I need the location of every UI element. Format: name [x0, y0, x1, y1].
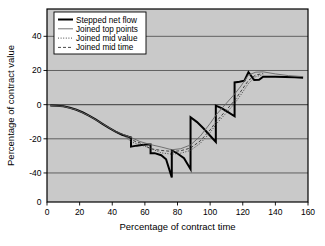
x-tick-label: 0	[45, 207, 50, 217]
chart-container: 02040608010012014016040200-20-400Percent…	[0, 0, 325, 246]
y-tick-label: -20	[29, 134, 42, 144]
legend-label-1: Stepped net flow	[76, 16, 137, 25]
x-tick-label: 80	[173, 207, 183, 217]
x-tick-label: 140	[268, 207, 282, 217]
x-tick-label: 120	[236, 207, 250, 217]
contract-cashflow-chart: 02040608010012014016040200-20-400Percent…	[0, 0, 325, 246]
x-tick-label: 40	[108, 207, 118, 217]
x-tick-label: 160	[301, 207, 315, 217]
x-axis-title: Percentage of contract time	[119, 221, 235, 232]
y-tick-label: 40	[32, 31, 42, 41]
x-tick-label: 20	[75, 207, 85, 217]
y-tick-label: 0	[37, 100, 42, 110]
legend: Stepped net flowJoined top pointsJoined …	[54, 12, 146, 54]
y-axis-title: Percentage of contract value	[5, 45, 16, 166]
x-tick-label: 60	[140, 207, 150, 217]
y-tick-label: 20	[32, 65, 42, 75]
legend-label-2: Joined top points	[76, 25, 138, 34]
x-tick-label: 100	[203, 207, 217, 217]
y-tick-label: -40	[29, 168, 42, 178]
legend-label-4: Joined mid time	[76, 43, 134, 52]
y-axis-origin-label: 0	[37, 197, 42, 207]
legend-label-3: Joined mid value	[76, 34, 138, 43]
